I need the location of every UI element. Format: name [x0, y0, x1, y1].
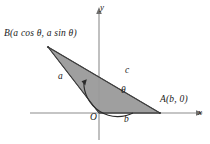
angle-label-theta: θ — [121, 86, 126, 96]
geometry-figure: B(a cos θ, a sin θ) A(b, 0) O a b c θ x … — [0, 0, 210, 144]
vertex-label-a: A(b, 0) — [160, 95, 188, 105]
figure-canvas — [0, 0, 210, 144]
vertex-label-b: B(a cos θ, a sin θ) — [4, 29, 77, 39]
side-label-b: b — [124, 115, 129, 125]
side-label-c: c — [125, 66, 129, 76]
x-axis-label: x — [198, 108, 202, 117]
side-label-a: a — [58, 72, 63, 82]
y-axis-label: y — [100, 3, 104, 12]
vertex-b-point — [47, 46, 49, 48]
origin-label: O — [90, 113, 97, 123]
vertex-a-point — [159, 112, 161, 114]
